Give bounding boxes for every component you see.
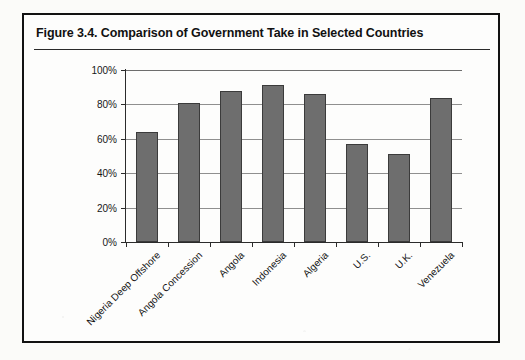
figure-container: Figure 3.4. Comparison of Government Tak…	[22, 13, 500, 343]
bar	[136, 132, 158, 242]
bar-slot	[252, 70, 294, 242]
bar-slot	[336, 70, 378, 242]
x-tick-mark	[126, 242, 127, 247]
y-axis-tick-label: 100%	[91, 65, 117, 76]
y-axis-tick-label: 20%	[97, 202, 117, 213]
y-axis-tick-label: 80%	[97, 99, 117, 110]
x-axis-labels-group: Nigeria Deep OffshoreAngola ConcessionAn…	[126, 248, 462, 338]
bar	[388, 154, 410, 242]
y-axis-tick-label: 40%	[97, 168, 117, 179]
bar	[262, 85, 284, 242]
title-divider	[34, 49, 490, 50]
bar-slot	[420, 70, 462, 242]
chart-plot-area: 100%80%60%40%20%0% Nigeria Deep Offshore…	[126, 70, 462, 242]
bars-group	[126, 70, 462, 242]
y-axis-tick-label: 60%	[97, 133, 117, 144]
bar-slot	[126, 70, 168, 242]
bar-slot	[378, 70, 420, 242]
y-axis-tick-label: 0%	[103, 237, 117, 248]
figure-title: Figure 3.4. Comparison of Government Tak…	[36, 26, 423, 40]
bar	[430, 98, 452, 242]
